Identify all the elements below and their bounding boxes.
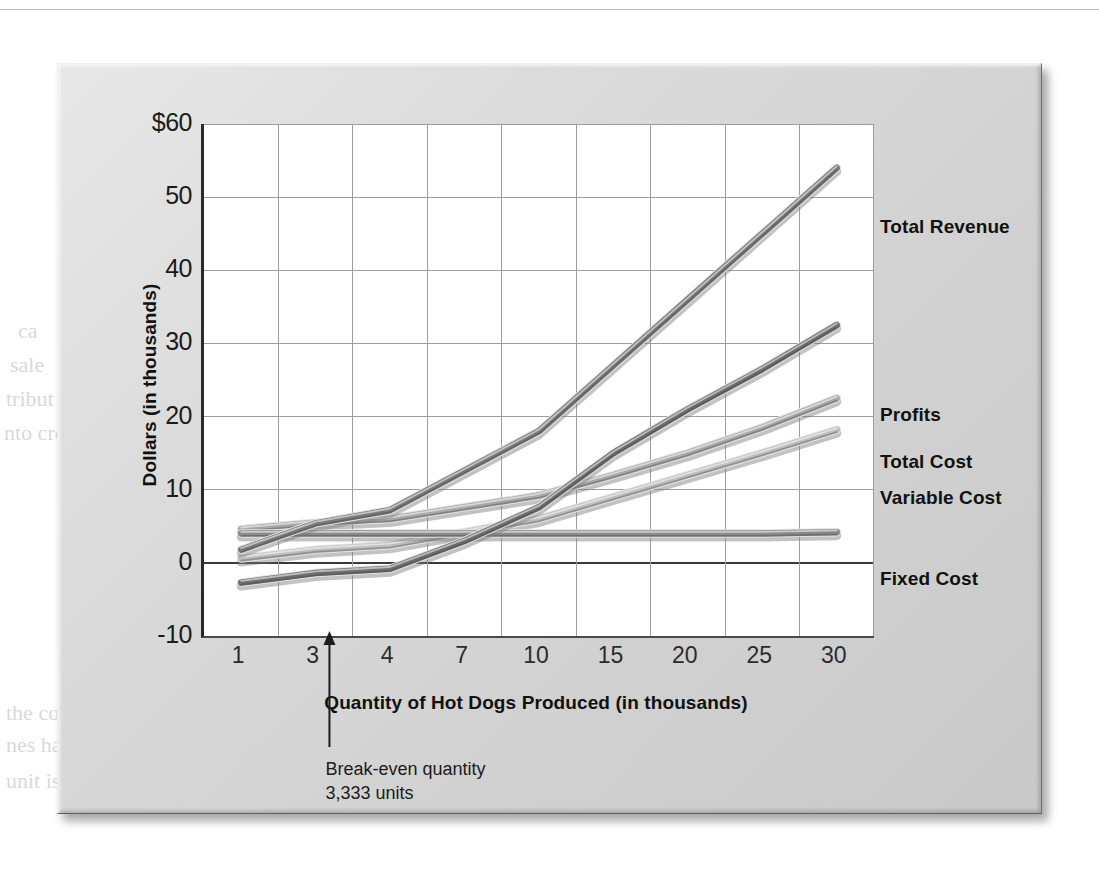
series-label-variable-cost: Variable Cost xyxy=(880,487,1002,509)
series-label-total-cost: Total Cost xyxy=(880,451,972,473)
break-even-chart: $6050403020100-10 Dollars (in thousands)… xyxy=(58,64,1041,813)
y-axis-title-wrap: Dollars (in thousands) xyxy=(118,124,119,636)
figure-panel: $6050403020100-10 Dollars (in thousands)… xyxy=(57,63,1042,814)
series-label-total-revenue: Total Revenue xyxy=(880,216,1010,238)
ghost-text: sale xyxy=(10,352,44,378)
series-lines xyxy=(204,124,874,636)
y-axis-tick-label: 50 xyxy=(88,181,192,210)
ghost-text: ca xyxy=(18,318,38,344)
break-even-arrow-icon xyxy=(201,629,871,759)
series-label-fixed-cost: Fixed Cost xyxy=(880,568,978,590)
plot-area xyxy=(201,124,874,638)
y-axis-tick-label: 0 xyxy=(88,547,192,576)
page-top-rule xyxy=(0,9,1099,10)
series-label-profits: Profits xyxy=(880,404,941,426)
break-even-annotation-text: Break-even quantity 3,333 units xyxy=(325,758,485,806)
y-axis-title: Dollars (in thousands) xyxy=(139,235,161,535)
y-axis-tick-label: $60 xyxy=(88,108,192,137)
ghost-text: nto cre xyxy=(4,420,64,446)
y-axis-tick-label: -10 xyxy=(88,620,192,649)
ghost-text: tribut xyxy=(6,386,54,412)
